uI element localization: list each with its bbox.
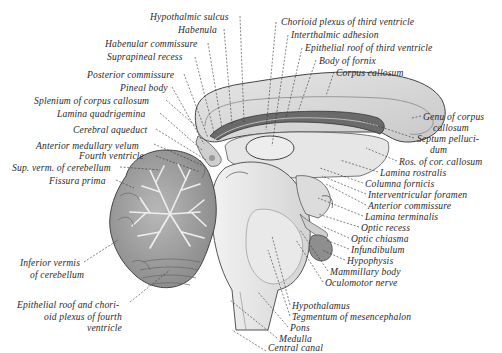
anatomy-figure: Hypothalmic sulcus Habenula Habenular co… xyxy=(0,0,502,353)
label-anterior-commissure: Anterior commissure xyxy=(368,201,451,211)
label-inferior-vermis-cont: of cerebellum xyxy=(30,270,84,280)
label-interventricular-foramen: Interventricular foramen xyxy=(368,190,467,200)
label-genu-of-corpus-callosum-cont: callosum xyxy=(433,123,469,133)
label-splenium-of-corpus-callosum: Splenium of corpus callosum xyxy=(34,96,149,106)
label-pineal-body: Pineal body xyxy=(120,83,168,93)
label-columna-fornicis: Columna fornicis xyxy=(365,179,434,189)
label-inferior-vermis: Inferior vermis xyxy=(20,258,80,268)
label-interthalmic-adhesion: Interthalmic adhesion xyxy=(291,30,379,40)
label-ros-of-cor-callosum: Ros. of cor. callosum xyxy=(399,157,482,167)
label-body-of-fornix: Body of fornix xyxy=(319,56,376,66)
label-oculomotor-nerve: Oculomotor nerve xyxy=(325,278,397,288)
label-epithelial-roof-third-ventricle: Epithelial roof of third ventricle xyxy=(305,43,433,53)
label-lamina-terminalis: Lamina terminalis xyxy=(365,212,438,222)
label-epithelial-roof-fourth-cont2: ventricle xyxy=(87,323,122,333)
label-hypothalamus: Hypothalamus xyxy=(292,301,350,311)
label-cerebral-aqueduct: Cerebral aqueduct xyxy=(73,125,147,135)
label-posterior-commissure: Posterior commissure xyxy=(87,70,174,80)
hypophysis-shape xyxy=(309,235,332,261)
label-lamina-rostralis: Lamina rostralis xyxy=(380,168,446,178)
label-fissura-prima: Fissura prima xyxy=(49,176,106,186)
label-septum-pellucidum-cont: dum xyxy=(430,145,447,155)
label-epithelial-roof-fourth: Epithelial roof and chori- xyxy=(17,300,119,310)
label-infundibulum: Infundibulum xyxy=(351,245,405,255)
label-septum-pellucidum: Septum pelluci- xyxy=(417,134,479,144)
label-lamina-quadrigemina: Lamina quadrigemina xyxy=(57,109,145,119)
label-hypothalmic-sulcus: Hypothalmic sulcus xyxy=(150,12,229,22)
label-fourth-ventricle: Fourth ventricle xyxy=(79,151,144,161)
label-sup-verm-of-cerebellum: Sup. verm. of cerebellum xyxy=(12,163,111,173)
label-habenular-commissure: Habenular commissure xyxy=(105,39,197,49)
label-tegmentum-of-mesencephalon: Tegmentum of mesencephalon xyxy=(292,312,411,322)
label-optic-chiasma: Optic chiasma xyxy=(351,234,409,244)
label-habenula: Habenula xyxy=(178,25,217,35)
label-corpus-callosum: Corpus callosum xyxy=(336,68,404,78)
label-pons: Pons xyxy=(290,323,310,333)
label-mammillary-body: Mammillary body xyxy=(330,267,401,277)
label-chorioid-plexus-third-ventricle: Chorioid plexus of third ventricle xyxy=(281,17,414,27)
figure-caption xyxy=(20,347,480,353)
label-hypophysis: Hypophysis xyxy=(347,256,393,266)
label-suprapineal-recess: Suprapineal recess xyxy=(107,52,183,62)
label-optic-recess: Optic recess xyxy=(361,223,410,233)
label-genu-of-corpus-callosum: Genu of corpus xyxy=(423,112,484,122)
cerebellum-shape xyxy=(110,150,217,288)
label-epithelial-roof-fourth-cont: oid plexus of fourth xyxy=(44,312,122,322)
